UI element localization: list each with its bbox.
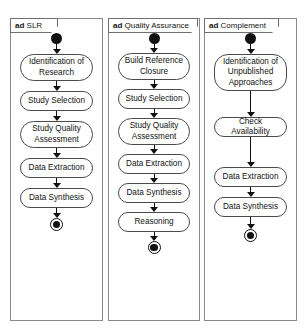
- activity-flow-complement: Identification of Unpublished Approaches…: [205, 33, 296, 242]
- control-flow-edge-slr-3: [52, 148, 61, 158]
- control-flow-edge-quality-assurance-2: [150, 109, 159, 118]
- activity-flow-slr: Identification of ResearchStudy Selectio…: [11, 33, 102, 231]
- edge-line: [250, 91, 251, 112]
- frame-header-complement: ad Complement: [204, 18, 279, 33]
- frame-keyword: ad: [15, 21, 24, 30]
- frame-header-quality-assurance: ad Quality Assurance: [108, 18, 198, 33]
- control-flow-edge-quality-assurance-4: [150, 174, 159, 183]
- control-flow-edge-quality-assurance-6: [150, 232, 159, 241]
- action-node[interactable]: Study Selection: [118, 89, 190, 109]
- action-node[interactable]: Study Quality Assessment: [20, 121, 93, 148]
- final-node-complement: [244, 229, 257, 242]
- initial-node-quality-assurance: [149, 33, 160, 44]
- action-node[interactable]: Data Synthesis: [214, 197, 287, 217]
- control-flow-edge-quality-assurance-0: [150, 44, 159, 53]
- action-node[interactable]: Data Extraction: [20, 158, 93, 178]
- initial-node-complement: [245, 33, 256, 44]
- edge-line: [250, 137, 251, 162]
- control-flow-edge-slr-4: [52, 178, 61, 188]
- control-flow-edge-slr-5: [52, 208, 61, 218]
- action-node[interactable]: Check Availability: [214, 117, 287, 137]
- frame-header-slr: ad SLR: [10, 18, 58, 33]
- control-flow-edge-slr-1: [52, 81, 61, 91]
- control-flow-edge-slr-2: [52, 111, 61, 121]
- action-node[interactable]: Study Selection: [20, 91, 93, 111]
- action-node[interactable]: Identification of Unpublished Approaches: [214, 54, 287, 91]
- frame-name: Complement: [221, 21, 266, 30]
- control-flow-edge-complement-0: [246, 44, 255, 54]
- activity-frame-quality-assurance: ad Quality AssuranceBuild Reference Clos…: [108, 18, 200, 321]
- frame-keyword: ad: [113, 21, 122, 30]
- action-node[interactable]: Reasoning: [118, 212, 190, 232]
- action-node[interactable]: Build Reference Closure: [118, 53, 190, 80]
- control-flow-edge-quality-assurance-5: [150, 203, 159, 212]
- control-flow-edge-slr-0: [52, 44, 61, 54]
- final-node-quality-assurance: [148, 241, 161, 254]
- action-node[interactable]: Data Extraction: [214, 167, 287, 187]
- edge-line: [250, 217, 251, 224]
- control-flow-edge-complement-3: [246, 187, 255, 197]
- action-node[interactable]: Data Synthesis: [118, 183, 190, 203]
- action-node[interactable]: Study Quality Assessment: [118, 118, 190, 145]
- action-node[interactable]: Identification of Research: [20, 54, 93, 81]
- final-node-slr: [50, 218, 63, 231]
- control-flow-edge-complement-4: [246, 217, 255, 229]
- action-node[interactable]: Data Extraction: [118, 154, 190, 174]
- action-node[interactable]: Data Synthesis: [20, 188, 93, 208]
- control-flow-edge-quality-assurance-3: [150, 145, 159, 154]
- frame-keyword: ad: [209, 21, 218, 30]
- frame-name: SLR: [27, 21, 43, 30]
- initial-node-slr: [51, 33, 62, 44]
- activity-frame-slr: ad SLRIdentification of ResearchStudy Se…: [10, 18, 103, 321]
- frame-name: Quality Assurance: [125, 21, 189, 30]
- activity-flow-quality-assurance: Build Reference ClosureStudy SelectionSt…: [109, 33, 199, 254]
- control-flow-edge-complement-2: [246, 137, 255, 167]
- control-flow-edge-quality-assurance-1: [150, 80, 159, 89]
- activity-diagram-canvas: ad SLRIdentification of ResearchStudy Se…: [0, 0, 307, 336]
- activity-frame-complement: ad ComplementIdentification of Unpublish…: [204, 18, 297, 321]
- control-flow-edge-complement-1: [246, 91, 255, 117]
